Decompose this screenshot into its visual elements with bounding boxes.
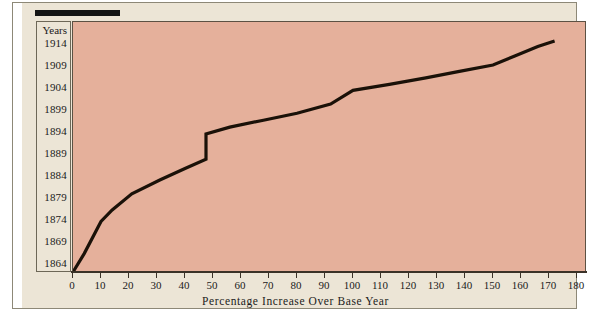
y-tick-label: 1899 [44, 103, 67, 115]
chart-plate: Years 1914 1909 1904 1899 1894 1889 1884… [12, 2, 577, 309]
x-tick-mark [352, 273, 353, 278]
x-tick-label: 140 [456, 279, 473, 291]
x-tick-mark [408, 273, 409, 278]
x-tick-mark [268, 273, 269, 278]
x-tick-mark [464, 273, 465, 278]
x-tick-mark [548, 273, 549, 278]
x-tick-mark [128, 273, 129, 278]
y-tick-label: 1889 [44, 147, 67, 159]
x-tick-label: 150 [484, 279, 501, 291]
x-tick-label: 80 [291, 279, 302, 291]
x-tick-mark [296, 273, 297, 278]
data-line-series [73, 22, 586, 271]
x-tick-label: 120 [400, 279, 417, 291]
x-tick-label: 160 [512, 279, 529, 291]
x-tick-label: 170 [540, 279, 557, 291]
x-tick-label: 100 [344, 279, 361, 291]
x-tick-mark [72, 273, 73, 278]
x-tick-mark [212, 273, 213, 278]
x-tick-label: 20 [123, 279, 134, 291]
y-tick-label: 1864 [44, 257, 67, 269]
left-margin-gutter [13, 3, 22, 308]
x-tick-label: 0 [69, 279, 75, 291]
y-tick-label: 1884 [44, 169, 67, 181]
x-tick-mark [156, 273, 157, 278]
x-tick-mark [184, 273, 185, 278]
y-tick-label: 1869 [44, 235, 67, 247]
y-axis-title: Years [42, 24, 67, 36]
x-tick-label: 180 [568, 279, 585, 291]
x-tick-mark [576, 273, 577, 278]
y-tick-label: 1909 [44, 59, 67, 71]
x-tick-mark [436, 273, 437, 278]
y-axis-label-box: Years 1914 1909 1904 1899 1894 1889 1884… [36, 21, 71, 272]
x-tick-label: 50 [207, 279, 218, 291]
x-tick-label: 10 [95, 279, 106, 291]
plot-area [72, 21, 586, 271]
x-tick-mark [492, 273, 493, 278]
x-tick-label: 40 [179, 279, 190, 291]
x-tick-mark [240, 273, 241, 278]
x-tick-label: 60 [235, 279, 246, 291]
y-tick-label: 1879 [44, 191, 67, 203]
x-axis-line [71, 271, 587, 273]
x-tick-mark [380, 273, 381, 278]
y-tick-label: 1894 [44, 125, 67, 137]
x-tick-label: 70 [263, 279, 274, 291]
x-tick-label: 30 [151, 279, 162, 291]
y-tick-label: 1874 [44, 213, 67, 225]
x-tick-label: 90 [319, 279, 330, 291]
y-tick-label: 1904 [44, 81, 67, 93]
x-tick-mark [520, 273, 521, 278]
top-rule-bar [35, 10, 120, 16]
x-tick-mark [324, 273, 325, 278]
chart-figure: Years 1914 1909 1904 1899 1894 1889 1884… [0, 0, 591, 321]
y-tick-label: 1914 [44, 37, 67, 49]
x-tick-mark [100, 273, 101, 278]
x-tick-label: 130 [428, 279, 445, 291]
x-tick-label: 110 [372, 279, 388, 291]
x-axis-title: Percentage Increase Over Base Year [13, 295, 578, 307]
